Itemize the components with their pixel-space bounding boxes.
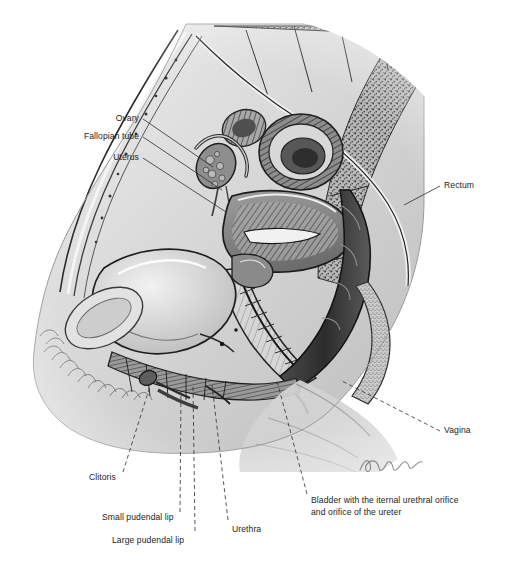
ureter-orifice xyxy=(234,328,238,332)
anatomy-figure xyxy=(0,0,507,561)
illustration-page: OvaryFallopian tubeUterusRectumVaginaCli… xyxy=(0,0,507,561)
body-section xyxy=(33,24,424,472)
label-urethra: Urethra xyxy=(232,524,261,536)
label-uterus: Uterus xyxy=(113,152,139,164)
internal-urethral-orifice xyxy=(220,342,224,346)
label-rectum: Rectum xyxy=(444,180,474,192)
label-clitoris: Clitoris xyxy=(89,472,116,484)
label-fallopian-tube: Fallopian tube xyxy=(84,131,139,143)
label-ovary: Ovary xyxy=(116,113,139,125)
label-vagina: Vagina xyxy=(444,425,471,437)
label-bladder: Bladder with the iternal urethral orific… xyxy=(311,494,461,518)
label-large-pudendal-lip: Large pudendal lip xyxy=(112,535,184,547)
label-small-pudendal-lip: Small pudendal lip xyxy=(102,512,174,524)
bowel-loop xyxy=(259,114,343,190)
